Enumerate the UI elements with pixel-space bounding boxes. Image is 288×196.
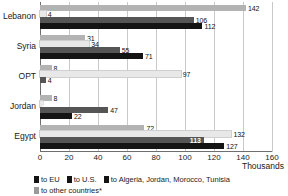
x-axis-tick-label: 0 xyxy=(38,153,42,162)
plot-area: 142410611231345571897482472272132113127 xyxy=(40,2,272,152)
bar-row: 22 xyxy=(40,113,272,119)
chart-legend: to EUto U.S.to Algeria, Jordan, Morocco,… xyxy=(34,175,286,195)
bar-value-label: 127 xyxy=(226,143,237,150)
category-label-egypt: Egypt xyxy=(0,132,36,141)
bar xyxy=(40,23,202,29)
bar-row: 71 xyxy=(40,53,272,59)
bar-row: 127 xyxy=(40,143,272,149)
bar-group: 72132113127 xyxy=(40,125,272,149)
bar-group: 1424106112 xyxy=(40,5,272,29)
x-axis-line xyxy=(40,151,272,152)
legend-item[interactable]: to other countries* xyxy=(34,186,102,195)
legend-label: to Algeria, Jordan, Morocco, Tunisia xyxy=(111,175,230,184)
bar-group: 824722 xyxy=(40,95,272,119)
x-axis-tick-label: 80 xyxy=(152,153,161,162)
grid-line xyxy=(272,2,273,152)
legend-item[interactable]: to EU xyxy=(34,175,60,184)
bar-group: 8974 xyxy=(40,65,272,89)
bar-chart: 142410611231345571897482472272132113127 … xyxy=(0,0,288,196)
x-axis-tick-label: 120 xyxy=(207,153,220,162)
x-axis-tick-label: 100 xyxy=(178,153,191,162)
bar xyxy=(40,143,224,149)
legend-item[interactable]: to Algeria, Jordan, Morocco, Tunisia xyxy=(104,175,230,184)
category-label-jordan: Jordan xyxy=(0,102,36,111)
bar xyxy=(40,113,72,119)
bar-value-label: 22 xyxy=(74,113,82,120)
x-axis-tick-label: 20 xyxy=(65,153,74,162)
legend-label: to EU xyxy=(41,175,60,184)
legend-swatch-icon xyxy=(34,176,39,183)
legend-swatch-icon xyxy=(34,187,39,194)
legend-row-primary: to EUto U.S.to Algeria, Jordan, Morocco,… xyxy=(34,175,286,184)
legend-label: to U.S. xyxy=(74,175,97,184)
category-label-lebanon: Lebanon xyxy=(0,12,36,21)
bar-value-label: 71 xyxy=(145,53,153,60)
category-label-syria: Syria xyxy=(0,42,36,51)
x-axis-units-label: Thousands xyxy=(242,162,284,171)
bar-row: 112 xyxy=(40,23,272,29)
category-label-opt: OPT xyxy=(0,72,36,81)
legend-swatch-icon xyxy=(104,176,109,183)
bar-value-label: 112 xyxy=(204,23,215,30)
legend-label: to other countries* xyxy=(41,186,102,195)
bar xyxy=(40,53,143,59)
x-axis-tick-label: 60 xyxy=(123,153,132,162)
x-axis-tick-label: 40 xyxy=(94,153,103,162)
legend-item[interactable]: to U.S. xyxy=(67,175,97,184)
legend-swatch-icon xyxy=(67,176,72,183)
bar-row xyxy=(40,83,272,89)
bar-group: 31345571 xyxy=(40,35,272,59)
legend-row-secondary: to other countries* xyxy=(34,186,286,195)
